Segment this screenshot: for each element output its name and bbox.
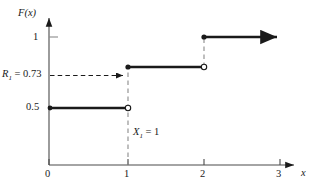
x1-annotation: X1 = 1 [133, 127, 159, 140]
y-tick-label-0-5: 0.5 [26, 102, 39, 113]
step-3-left-closed-dot [201, 34, 206, 39]
r1-value-text: = 0.73 [12, 68, 42, 79]
step-1-left-closed-dot [48, 106, 53, 111]
y-axis-label: F(x) [18, 8, 36, 19]
x-tick-label-2: 2 [200, 169, 205, 180]
y-tick-label-1: 1 [33, 32, 38, 43]
x1-value-text: = 1 [143, 126, 159, 137]
step-2-right-open-circle [201, 64, 206, 69]
step-2-left-closed-dot [125, 64, 130, 69]
x-tick-label-3: 3 [276, 169, 281, 180]
step-1-right-open-circle [125, 105, 130, 110]
plot-canvas [0, 0, 317, 189]
r1-annotation: R1 = 0.73 [2, 69, 41, 82]
x-axis-label: x [301, 168, 306, 179]
step-function-figure: F(x) 1 0.5 R1 = 0.73 X1 = 1 0 1 2 3 x [0, 0, 317, 189]
x-tick-label-1: 1 [124, 169, 129, 180]
x-tick-label-0: 0 [45, 169, 50, 180]
